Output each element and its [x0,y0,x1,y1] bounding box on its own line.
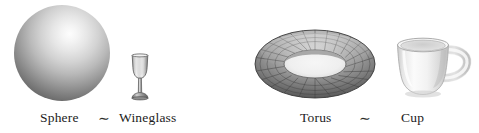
cup-interior [401,40,445,51]
caption-torus: Torus [300,110,332,126]
sphere-rim-shading [14,5,110,101]
wineglass-stem [138,78,141,93]
cup-svg [392,37,470,101]
sphere-illustration [14,5,110,101]
wineglass-svg [128,53,156,101]
topology-equivalence-figure: Sphere ∼ Wineglass Torus ∼ Cup [0,0,479,133]
relation-symbol-torus-cup: ∼ [359,112,371,126]
cup-illustration [392,37,470,101]
wineglass-foot-base [132,97,148,100]
torus-svg [253,28,377,100]
relation-symbol-sphere-wineglass: ∼ [98,112,110,126]
caption-sphere: Sphere [40,110,79,126]
cup-base-shadow [405,91,441,98]
caption-wineglass: Wineglass [119,110,177,126]
torus-illustration [253,28,377,100]
wineglass-rim [132,54,148,57]
caption-cup: Cup [401,110,424,126]
wineglass-illustration [128,53,156,101]
